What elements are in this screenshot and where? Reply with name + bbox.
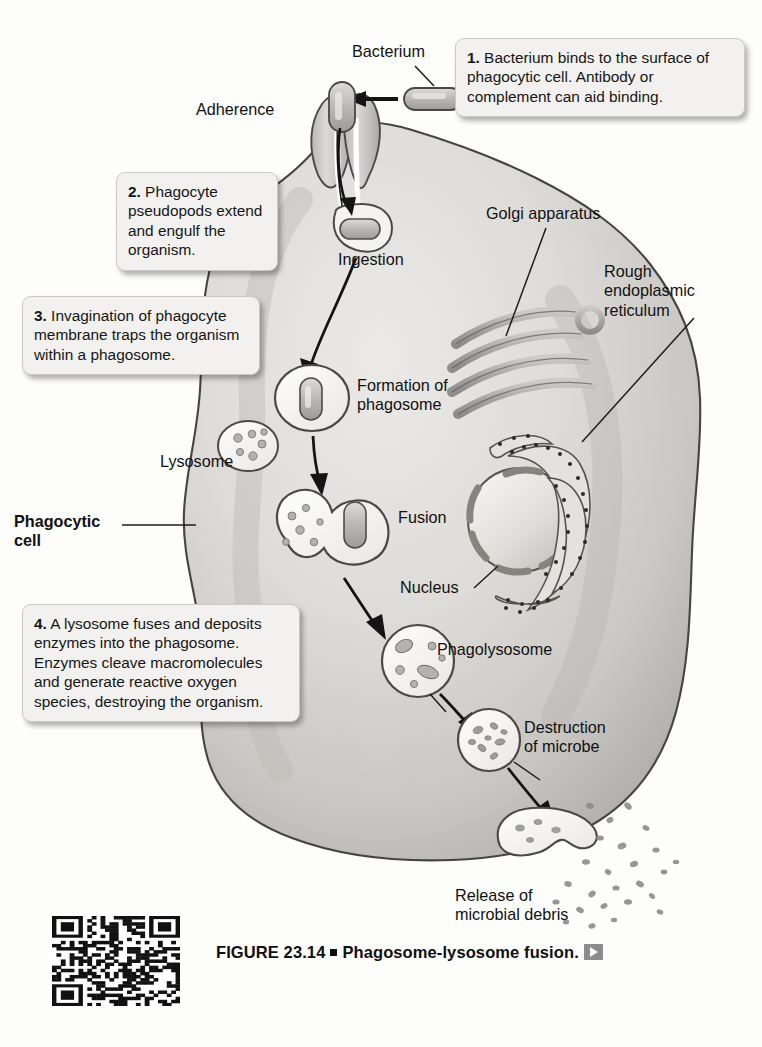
figure-caption: FIGURE 23.14Phagosome-lysosome fusion. [216,942,686,963]
callout-step-3-text: Invagination of phagocyte membrane traps… [34,307,239,363]
callout-step-4-number: 4. [34,615,47,632]
bacterium-leader-line [415,66,434,86]
callout-step-2-number: 2. [128,183,141,200]
bacterium-adhered [329,82,355,132]
label-rough-endoplasmic-reticulum: Rough endoplasmic reticulum [604,262,695,320]
callout-step-3[interactable]: 3. Invagination of phagocyte membrane tr… [22,296,260,375]
label-lysosome: Lysosome [160,452,233,471]
label-phagocytic-cell: Phagocytic cell [14,512,100,551]
callout-step-4-text: A lysosome fuses and deposits enzymes in… [34,615,263,710]
callout-step-2-text: Phagocyte pseudopods extend and engulf t… [128,183,262,258]
callout-step-1-text: Bacterium binds to the surface of phagoc… [467,49,709,105]
callout-step-2[interactable]: 2. Phagocyte pseudopods extend and engul… [116,172,278,271]
label-golgi-apparatus: Golgi apparatus [486,204,600,223]
caption-separator-square [330,949,337,956]
phagolysosome [382,625,454,697]
label-destruction-of-microbe: Destruction of microbe [524,718,606,757]
figure-page: 1. Bacterium binds to the surface of pha… [0,0,762,1047]
figure-number: FIGURE 23.14 [216,943,325,961]
label-phagolysosome: Phagolysosome [437,640,552,659]
callout-step-4[interactable]: 4. A lysosome fuses and deposits enzymes… [22,604,300,722]
label-release-of-microbial-debris: Release of microbial debris [455,886,568,925]
phagocytosis-illustration [0,0,762,1047]
callout-step-1-number: 1. [467,49,480,66]
label-bacterium: Bacterium [352,42,425,61]
bacterium-free [404,88,462,110]
qr-code[interactable] [52,916,180,1006]
phagosome [275,365,349,431]
callout-step-3-number: 3. [34,307,47,324]
figure-title: Phagosome-lysosome fusion. [342,943,578,961]
callout-step-1[interactable]: 1. Bacterium binds to the surface of pha… [455,38,745,117]
label-nucleus: Nucleus [400,578,458,597]
label-ingestion: Ingestion [338,250,404,269]
label-fusion: Fusion [398,508,447,527]
label-formation-of-phagosome: Formation of phagosome [357,376,448,415]
destruction-vesicle [458,709,520,771]
label-adherence: Adherence [196,100,274,119]
play-triangle-icon[interactable] [584,944,603,960]
